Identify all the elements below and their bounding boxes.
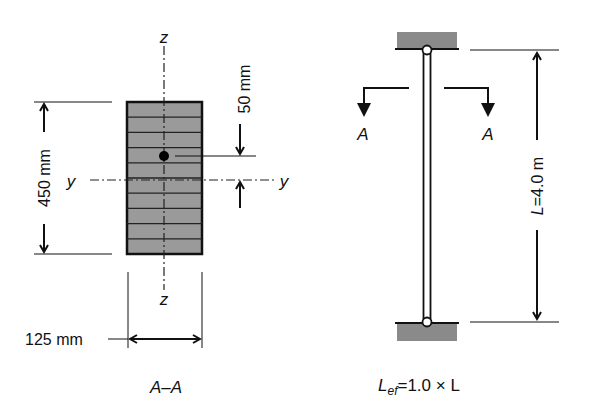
bottom-pin-icon [423, 318, 432, 327]
svg-text:A: A [481, 125, 493, 144]
z-axis-label-bottom: z [159, 290, 169, 309]
cross-section: z z y y 50 mm 450 mm 125 mm A–A [25, 28, 290, 397]
top-pin-icon [423, 46, 432, 55]
z-axis-label-top: z [159, 28, 169, 47]
section-mark-right: A [444, 88, 495, 144]
effective-length-caption: Lef=1.0 × L [378, 376, 460, 398]
timber-column-diagram: z z y y 50 mm 450 mm 125 mm A–A [0, 0, 589, 411]
offset-dimension-label: 50 mm [236, 65, 253, 114]
y-axis-label-left: y [66, 172, 77, 191]
length-dimension-label: L=4.0 m [529, 157, 546, 215]
load-point-dot [159, 151, 169, 161]
svg-text:A: A [356, 125, 368, 144]
y-axis-label-right: y [279, 172, 290, 191]
width-dimension-label: 125 mm [25, 331, 83, 348]
column-elevation: A A L=4.0 m Lef=1.0 × L [356, 32, 559, 398]
section-mark-left: A [356, 88, 409, 144]
height-dimension-label: 450 mm [36, 149, 53, 207]
section-caption: A–A [149, 378, 182, 397]
